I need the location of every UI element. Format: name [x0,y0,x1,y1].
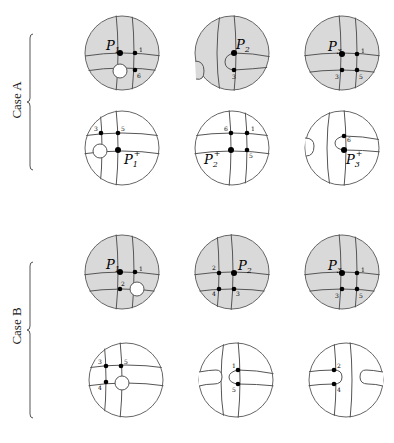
svg-text:2: 2 [337,362,341,369]
svg-text:5: 5 [121,125,125,132]
panel-b-top-1: P1 1 2 [82,232,162,312]
svg-text:5: 5 [232,386,236,393]
panel-a-top-2: P2 3 [195,13,272,93]
panel-b-top-3: P3 1 3 5 [302,232,382,312]
svg-text:5: 5 [124,358,128,365]
svg-text:1: 1 [139,46,143,53]
svg-text:6: 6 [347,136,351,143]
svg-text:2: 2 [121,280,125,287]
diagram: P1 1 6 P2 3 P3 1 3 5 [0,0,394,443]
panel-b-bottom-2: 1 5 [199,340,276,420]
case-b-brace [27,262,33,418]
svg-text:3: 3 [335,73,339,80]
svg-text:1: 1 [251,125,255,132]
panel-b-bottom-1: 3 5 4 [86,340,166,420]
svg-text:2: 2 [212,264,216,271]
panel-b-bottom-3: 2 4 [306,340,383,420]
svg-text:3: 3 [232,73,236,80]
svg-text:1: 1 [361,47,365,54]
svg-text:5: 5 [249,152,253,159]
panel-a-bottom-2: 6 1 5 P2+ [192,108,272,188]
svg-text:6: 6 [224,125,228,132]
case-a-brace [27,34,33,170]
svg-text:4: 4 [212,290,216,297]
panel-a-top-1: P1 1 6 [85,13,162,93]
panel-a-top-3: P3 1 3 5 [302,13,382,93]
svg-text:1: 1 [361,266,365,273]
svg-text:5: 5 [359,73,363,80]
svg-text:1: 1 [139,265,143,272]
panel-a-bottom-3: 6 P3+ [305,108,382,188]
svg-text:1: 1 [232,362,236,369]
svg-text:3: 3 [98,358,102,365]
panel-b-top-2: 2 P2 4 3 [192,232,272,312]
svg-text:3: 3 [94,125,98,132]
svg-text:3: 3 [335,292,339,299]
svg-text:3: 3 [236,290,240,297]
svg-text:4: 4 [337,386,341,393]
panel-a-bottom-1: 3 5 P1+ [82,108,162,188]
svg-text:4: 4 [98,384,102,391]
svg-text:5: 5 [359,292,363,299]
svg-text:6: 6 [137,72,141,79]
